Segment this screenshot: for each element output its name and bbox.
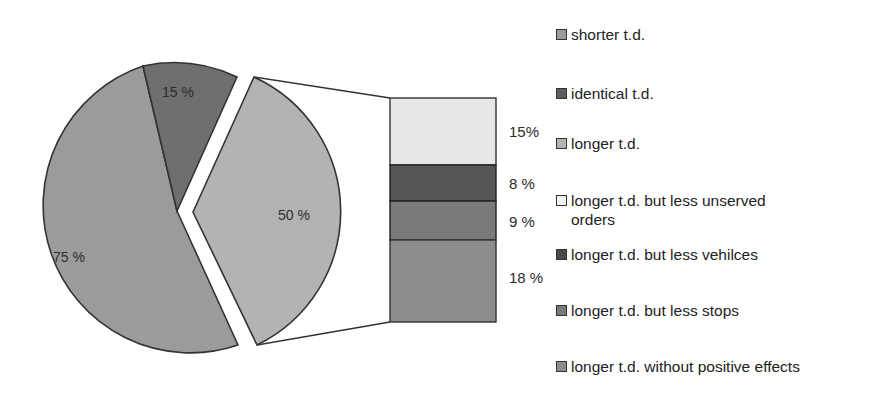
legend-item-no-positive-effects: longer t.d. without positive effects <box>556 357 871 376</box>
legend-item-unserved-orders: longer t.d. but less unserved orders <box>556 191 871 229</box>
bar-segment-vehicles <box>390 165 496 201</box>
legend-swatch-icon <box>556 29 567 40</box>
legend-label: shorter t.d. <box>571 25 871 44</box>
legend-label: longer t.d. but less unserved orders <box>571 191 871 229</box>
legend-item-vehicles: longer t.d. but less vehilces <box>556 245 871 264</box>
legend-swatch-icon <box>556 361 567 372</box>
legend-item-stops: longer t.d. but less stops <box>556 301 871 320</box>
bar-segment-stops <box>390 201 496 240</box>
legend-item-longer: longer t.d. <box>556 134 871 153</box>
bar-segment-unserved-orders <box>390 98 496 165</box>
bar-segment-no-positive-effects <box>390 240 496 322</box>
legend-swatch-icon <box>556 138 567 149</box>
bar-label-vehicles: 8 % <box>509 175 535 192</box>
bar-label-no-positive-effects: 18 % <box>509 269 543 286</box>
legend-swatch-icon <box>556 88 567 99</box>
legend-label: longer t.d. but less vehilces <box>571 245 871 264</box>
legend-label: identical t.d. <box>571 84 871 103</box>
chart-legend: shorter t.d. identical t.d. longer t.d. … <box>556 0 885 398</box>
bar-label-stops: 9 % <box>509 213 535 230</box>
legend-item-identical: identical t.d. <box>556 84 871 103</box>
legend-label: longer t.d. without positive effects <box>571 357 871 376</box>
legend-item-shorter: shorter t.d. <box>556 25 871 44</box>
pie-label-shorter: 75 % <box>53 249 85 265</box>
legend-label: longer t.d. <box>571 134 871 153</box>
legend-label: longer t.d. but less stops <box>571 301 871 320</box>
bar-label-unserved-orders: 15% <box>509 123 539 140</box>
legend-swatch-icon <box>556 195 567 206</box>
pie-label-longer: 50 % <box>278 207 310 223</box>
pie-label-identical: 15 % <box>162 84 194 100</box>
legend-swatch-icon <box>556 249 567 260</box>
legend-swatch-icon <box>556 305 567 316</box>
